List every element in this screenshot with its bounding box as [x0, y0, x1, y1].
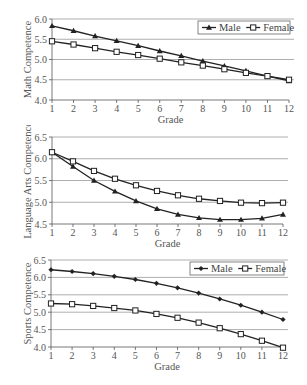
data-point — [217, 296, 222, 301]
y-tick-label: 4.0 — [34, 342, 47, 353]
x-tick-label: 2 — [71, 103, 76, 114]
y-tick-label: 5.5 — [35, 34, 48, 45]
x-tick-label: 9 — [217, 350, 222, 361]
x-tick-label: 4 — [112, 350, 117, 361]
x-tick-label: 12 — [278, 227, 288, 238]
math-competence-chart: 4.04.55.05.56.0123456789101112GradeMath … — [0, 0, 307, 125]
data-point — [238, 303, 243, 308]
legend-marker — [243, 266, 248, 271]
sports-competence-chart: 4.04.55.05.56.06.5123456789101112GradeSp… — [0, 255, 307, 385]
data-point — [92, 46, 97, 51]
x-tick-label: 6 — [154, 350, 159, 361]
data-point — [157, 56, 162, 61]
x-axis: 123456789101112 — [50, 224, 289, 238]
data-point — [238, 200, 243, 205]
data-point — [217, 198, 222, 203]
x-axis-title: Grade — [158, 114, 184, 125]
y-tick-label: 6.0 — [34, 272, 47, 283]
legend-label-male: Male — [219, 22, 241, 33]
data-point — [114, 49, 119, 54]
data-point — [175, 315, 180, 320]
data-point — [112, 274, 117, 279]
x-axis-title: Grade — [154, 361, 180, 372]
data-point — [49, 39, 54, 44]
x-tick-label: 2 — [70, 350, 75, 361]
x-tick-label: 7 — [176, 227, 181, 238]
data-point — [133, 308, 138, 313]
x-tick-label: 11 — [263, 103, 273, 114]
x-tick-label: 6 — [155, 227, 160, 238]
data-point — [48, 267, 53, 272]
x-tick-label: 3 — [91, 350, 96, 361]
series-line — [51, 304, 283, 348]
data-point — [71, 42, 76, 47]
data-point — [154, 311, 159, 316]
data-point — [69, 269, 74, 274]
y-tick-label: 6.0 — [35, 153, 48, 164]
series-female — [49, 39, 291, 83]
data-point — [280, 345, 285, 350]
x-tick-label: 3 — [93, 103, 98, 114]
data-point — [222, 67, 227, 72]
x-tick-label: 5 — [136, 103, 141, 114]
x-tick-label: 11 — [257, 350, 267, 361]
data-point — [243, 70, 248, 75]
x-tick-label: 1 — [50, 227, 55, 238]
data-point — [91, 303, 96, 308]
x-tick-label: 4 — [114, 103, 119, 114]
y-axis-title: Sports Competence — [22, 262, 33, 344]
y-axis: 4.55.05.56.06.5 — [35, 132, 53, 230]
y-tick-label: 5.0 — [35, 197, 48, 208]
data-point — [238, 332, 243, 337]
y-axis-title: Math Competence — [22, 21, 33, 99]
y-tick-label: 5.0 — [35, 54, 48, 65]
x-tick-label: 12 — [284, 103, 294, 114]
data-point — [259, 310, 264, 315]
x-tick-label: 3 — [92, 227, 97, 238]
y-tick-label: 4.5 — [35, 219, 48, 230]
legend-label-female: Female — [255, 263, 286, 274]
data-point — [70, 159, 75, 164]
data-point — [154, 281, 159, 286]
data-point — [133, 183, 138, 188]
data-point — [154, 188, 159, 193]
y-axis: 4.04.55.05.56.0 — [35, 14, 53, 106]
data-point — [49, 150, 54, 155]
gridlines — [52, 137, 288, 202]
x-tick-label: 7 — [179, 103, 184, 114]
x-axis: 123456789101112 — [49, 347, 289, 361]
data-point — [280, 200, 285, 205]
x-tick-label: 5 — [133, 350, 138, 361]
series-line — [52, 152, 283, 203]
legend-marker — [251, 25, 256, 30]
data-point — [259, 338, 264, 343]
series-line — [52, 152, 283, 219]
y-tick-label: 5.5 — [35, 175, 48, 186]
y-tick-label: 6.5 — [35, 132, 48, 143]
x-tick-label: 11 — [257, 227, 267, 238]
data-point — [136, 52, 141, 57]
y-tick-label: 6.5 — [34, 255, 47, 266]
y-axis-title: Language Arts Competence — [22, 125, 33, 239]
legend-label-male: Male — [211, 263, 233, 274]
x-axis-title: Grade — [155, 238, 181, 249]
x-tick-label: 10 — [241, 103, 251, 114]
data-point — [91, 168, 96, 173]
y-tick-label: 6.0 — [35, 14, 48, 25]
y-tick-label: 5.5 — [34, 289, 47, 300]
y-tick-label: 4.5 — [35, 74, 48, 85]
legend: MaleFemale — [198, 21, 294, 34]
legend-label-female: Female — [263, 22, 294, 33]
data-point — [259, 201, 264, 206]
language-arts-competence-chart: 4.55.05.56.06.5123456789101112GradeLangu… — [0, 125, 307, 255]
data-point — [112, 176, 117, 181]
y-tick-label: 4.5 — [34, 324, 47, 335]
x-tick-label: 1 — [49, 350, 54, 361]
data-point — [280, 317, 285, 322]
series-male — [49, 149, 286, 222]
x-tick-label: 10 — [236, 227, 246, 238]
data-point — [280, 211, 286, 216]
y-tick-label: 5.0 — [34, 307, 47, 318]
data-point — [48, 301, 53, 306]
x-tick-label: 2 — [71, 227, 76, 238]
